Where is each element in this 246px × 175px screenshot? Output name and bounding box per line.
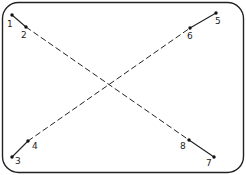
label-2: 2	[21, 30, 27, 40]
dashed-segments	[26, 27, 190, 141]
segment-3-4	[12, 141, 28, 157]
point-labels: 1 2 3 4 5 6 7 8	[7, 16, 221, 168]
segment-1-2	[12, 15, 26, 27]
point-3	[10, 155, 13, 158]
solid-segments	[12, 13, 216, 157]
segment-8-7	[189, 140, 214, 157]
point-2	[24, 25, 27, 28]
dashed-line-2-8	[26, 27, 189, 140]
segment-5-6	[190, 13, 216, 28]
point-8	[187, 138, 190, 141]
point-4	[26, 139, 29, 142]
rounded-frame	[3, 3, 244, 173]
label-5: 5	[215, 16, 221, 26]
point-6	[188, 26, 191, 29]
label-1: 1	[7, 19, 13, 29]
label-4: 4	[32, 141, 38, 151]
crossing-lines-diagram: 1 2 3 4 5 6 7 8	[0, 0, 246, 175]
label-6: 6	[187, 31, 193, 41]
point-5	[214, 11, 217, 14]
label-3: 3	[15, 156, 21, 166]
label-8: 8	[180, 141, 186, 151]
point-1	[10, 13, 13, 16]
point-7	[212, 155, 215, 158]
label-7: 7	[206, 158, 212, 168]
